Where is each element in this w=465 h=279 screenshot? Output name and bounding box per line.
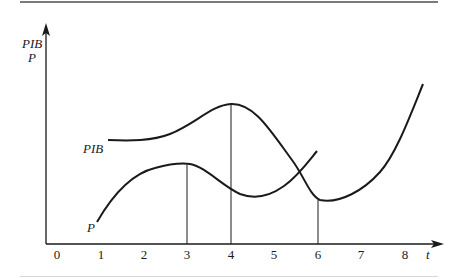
- p-curve: [97, 151, 317, 222]
- x-tick-4: 4: [228, 248, 235, 261]
- y-axis-label-p: P: [28, 51, 36, 64]
- x-tick-6: 6: [315, 248, 322, 261]
- x-tick-3: 3: [184, 248, 191, 261]
- curve-label-pib: PIB: [83, 142, 103, 155]
- y-axis-label-pib: PIB: [22, 37, 42, 50]
- x-axis-label-t: t: [426, 248, 430, 261]
- chart-canvas: [0, 0, 465, 279]
- x-tick-8: 8: [402, 248, 409, 261]
- x-tick-1: 1: [98, 248, 105, 261]
- curve-label-p: P: [87, 221, 95, 234]
- x-tick-2: 2: [141, 248, 148, 261]
- pib-curve: [108, 84, 423, 201]
- x-tick-7: 7: [358, 248, 365, 261]
- x-tick-0: 0: [54, 248, 61, 261]
- x-tick-5: 5: [271, 248, 278, 261]
- bottom-rule: [20, 276, 438, 277]
